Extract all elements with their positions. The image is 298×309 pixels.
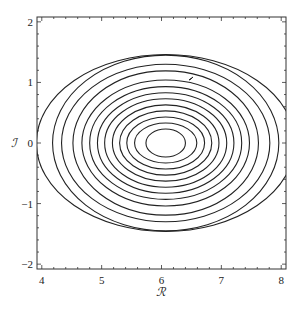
contour-line: [53, 55, 279, 231]
contour-line: [146, 129, 186, 157]
x-tick-label: 7: [219, 274, 225, 286]
contour-line: [120, 111, 212, 175]
x-tick-label: 5: [99, 274, 105, 286]
y-tick-label: −1: [21, 198, 33, 210]
x-axis-label: ℛ: [156, 285, 167, 299]
y-tick-label: 0: [28, 137, 34, 149]
contour-line: [62, 64, 270, 222]
arrow-mark-annotation: [189, 77, 193, 80]
contour-lines: [36, 55, 295, 232]
contour-line: [105, 99, 227, 187]
y-axis-tick-labels: 210−1−2: [21, 16, 33, 270]
x-tick-label: 8: [278, 274, 284, 286]
contour-line: [127, 117, 205, 169]
y-axis-label: ℐ: [11, 136, 19, 150]
y-tick-label: 1: [28, 76, 34, 88]
contour-line: [112, 105, 219, 181]
y-tick-label: 2: [28, 16, 34, 28]
contour-line: [36, 55, 295, 232]
contour-line: [97, 93, 233, 194]
y-tick-label: −2: [21, 258, 33, 270]
x-tick-label: 4: [39, 274, 45, 286]
contour-plot: 45678 210−1−2 ℛ ℐ: [0, 0, 298, 309]
